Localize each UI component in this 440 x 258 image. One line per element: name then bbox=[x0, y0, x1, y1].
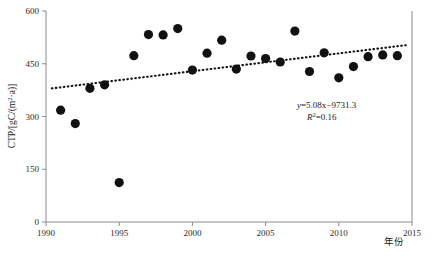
y-tick-label: 450 bbox=[26, 59, 40, 69]
y-tick-label: 300 bbox=[26, 112, 40, 122]
equation-rhs: =5.08x−9731.3 bbox=[301, 100, 357, 110]
chart-figure: 0150300450600 199019952000200520102015 C… bbox=[0, 0, 440, 258]
data-point bbox=[71, 119, 80, 128]
x-tick-label: 2010 bbox=[330, 228, 349, 238]
data-point bbox=[115, 178, 124, 187]
y-axis-title-prefix: CTP/[gC/(m bbox=[7, 100, 18, 148]
x-tick-label: 2005 bbox=[257, 228, 276, 238]
data-point bbox=[276, 57, 285, 66]
data-point bbox=[173, 24, 182, 33]
y-axis-title-suffix: ·a)] bbox=[7, 84, 18, 98]
x-tick-label: 2000 bbox=[183, 228, 202, 238]
data-point bbox=[378, 50, 387, 59]
scatter-plot: 0150300450600 199019952000200520102015 C… bbox=[0, 0, 440, 258]
data-point bbox=[363, 52, 372, 61]
data-point bbox=[144, 30, 153, 39]
data-point bbox=[320, 48, 329, 57]
y-tick-label: 600 bbox=[26, 6, 40, 16]
data-point bbox=[261, 54, 270, 63]
data-point bbox=[349, 62, 358, 71]
data-point bbox=[129, 51, 138, 60]
data-point bbox=[85, 84, 94, 93]
data-point bbox=[202, 49, 211, 58]
y-tick-label: 150 bbox=[26, 164, 40, 174]
equation-text: y=5.08x−9731.3 bbox=[296, 100, 357, 110]
y-tick-label: 0 bbox=[35, 217, 40, 227]
x-tick-label: 2015 bbox=[403, 228, 422, 238]
data-point bbox=[232, 64, 241, 73]
data-point bbox=[290, 26, 299, 35]
y-axis-ticks: 0150300450600 bbox=[26, 6, 47, 227]
svg-text:CTP/[gC/(m2·a)]: CTP/[gC/(m2·a)] bbox=[6, 84, 18, 149]
x-tick-label: 1990 bbox=[37, 228, 56, 238]
data-point bbox=[217, 36, 226, 45]
data-point bbox=[56, 106, 65, 115]
r-squared-rhs: =0.16 bbox=[316, 112, 337, 122]
y-axis-title: CTP/[gC/(m2·a)] bbox=[6, 84, 18, 149]
x-axis-title: 年份 bbox=[384, 236, 404, 247]
x-axis-ticks: 199019952000200520102015 bbox=[37, 222, 422, 238]
data-point bbox=[159, 30, 168, 39]
axis-frame-path bbox=[46, 11, 412, 222]
regression-annotation: y=5.08x−9731.3 R2=0.16 bbox=[296, 100, 357, 122]
r-squared-text: R2=0.16 bbox=[306, 111, 337, 122]
data-point bbox=[100, 80, 109, 89]
data-point bbox=[334, 73, 343, 82]
data-point bbox=[246, 51, 255, 60]
data-point bbox=[305, 67, 314, 76]
data-point bbox=[393, 51, 402, 60]
plot-frame bbox=[46, 11, 412, 222]
x-tick-label: 1995 bbox=[110, 228, 129, 238]
data-point bbox=[188, 65, 197, 74]
